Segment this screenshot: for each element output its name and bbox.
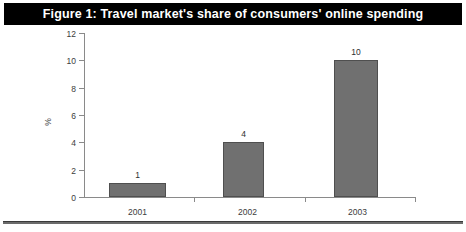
y-tick-label-0: 0: [56, 194, 76, 203]
figure-container: Figure 1: Travel market's share of consu…: [0, 0, 466, 232]
y-tick-label-8: 8: [56, 85, 76, 94]
y-tick-label-12: 12: [56, 30, 76, 39]
x-axis-line: [84, 197, 416, 198]
y-tick-label-10: 10: [56, 57, 76, 66]
bar-value-2001: 1: [109, 171, 166, 180]
bar-chart: % 12 10 8 6 4 2 0 1 4 10 200: [0, 28, 466, 210]
x-axis-endcap: [415, 197, 416, 202]
y-axis-label: %: [38, 112, 58, 132]
y-tick-label-4: 4: [56, 139, 76, 148]
bar-value-2003: 10: [334, 48, 378, 57]
x-axis-label-2001: 2001: [109, 208, 166, 217]
bar-2001: [109, 183, 166, 197]
x-axis-label-2003: 2003: [329, 208, 386, 217]
page-title: Figure 1: Travel market's share of consu…: [43, 8, 423, 21]
x-tick-mark-1: [194, 197, 195, 202]
bar-2003: [334, 60, 378, 197]
x-axis-label-2002: 2002: [219, 208, 276, 217]
y-axis-line: [84, 33, 85, 197]
bar-value-2002: 4: [223, 130, 264, 139]
y-tick-label-2: 2: [56, 167, 76, 176]
bar-2002: [223, 142, 264, 197]
y-tick-label-6: 6: [56, 112, 76, 121]
bottom-divider: [3, 221, 463, 224]
figure-title-banner: Figure 1: Travel market's share of consu…: [4, 3, 462, 25]
x-tick-mark-2: [305, 197, 306, 202]
